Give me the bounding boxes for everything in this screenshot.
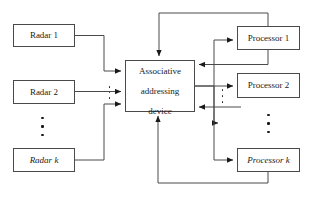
node-radar-2[interactable]: Radar 2 [13,80,75,104]
dot [267,122,269,124]
edge-processor1-feedback-to-center [199,50,268,65]
dot [109,86,111,88]
dot [109,92,111,94]
node-processor-k[interactable]: Processor k [237,148,300,172]
node-processor-2[interactable]: Processor 2 [237,73,300,98]
node-processor-1-label: Processor 1 [248,33,290,43]
dot [267,131,269,133]
dot [41,117,43,119]
edge-center-to-processor-middle [214,86,218,123]
dot [41,125,43,127]
node-center-label: Associative addressing device [139,56,181,116]
node-radar-k[interactable]: Radar k [13,148,75,172]
node-processor-k-label: Processor k [247,155,289,165]
dot [267,114,269,116]
node-associative-addressing-device[interactable]: Associative addressing device [125,60,195,112]
ellipsis-processor-inputs [219,89,226,103]
center-line-1: Associative [139,66,181,76]
dot [222,95,224,97]
dot [222,89,224,91]
ellipsis-processor-column [264,114,273,133]
node-radar-1[interactable]: Radar 1 [13,24,75,47]
edge-center-to-processor1 [195,40,233,86]
dot [109,97,111,99]
edge-radar1-to-center [75,36,121,72]
center-line-2: addressing [141,86,180,96]
block-diagram: Radar 1 Radar 2 Radar k Associative addr… [0,0,311,197]
dot [222,101,224,103]
node-radar-1-label: Radar 1 [30,30,58,40]
node-radar-2-label: Radar 2 [30,87,58,97]
edge-radark-to-center [75,104,121,160]
ellipsis-radar-inputs [106,86,113,99]
node-processor-1[interactable]: Processor 1 [237,26,300,50]
dot [41,134,43,136]
ellipsis-radar-column [38,117,47,136]
node-radar-k-label: Radar k [30,155,59,165]
node-processor-2-label: Processor 2 [248,80,290,90]
center-line-3: device [148,106,171,116]
